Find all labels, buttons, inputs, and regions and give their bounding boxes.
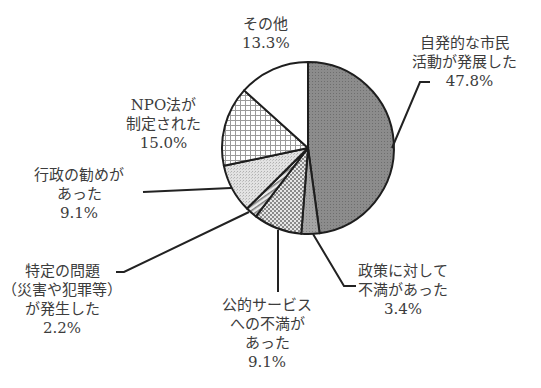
label-percent: 9.1% [222, 353, 312, 372]
label-civic-activity: 自発的な市民 活動が発展した 47.8% [412, 34, 517, 91]
label-administration: 行政の勧めが あった 9.1% [34, 166, 124, 223]
label-percent: 15.0% [126, 134, 201, 153]
label-line: 公的サービス [222, 296, 312, 315]
label-policy-dissatisfaction: 政策に対して 不満があった 3.4% [358, 262, 448, 319]
label-line: その他 [242, 15, 290, 34]
label-line: 政策に対して [358, 262, 448, 281]
leader-line-civic [392, 82, 430, 148]
label-other: その他 13.3% [242, 15, 290, 53]
pie-slice-0 [308, 62, 394, 233]
label-specific-problem: 特定の問題 （災害や犯罪等） が発生した 2.2% [2, 262, 122, 338]
label-line: への不満が [222, 315, 312, 334]
label-line: が発生した [2, 300, 122, 319]
label-line: 自発的な市民 [412, 34, 517, 53]
label-line: 行政の勧めが [34, 166, 124, 185]
label-line: NPO法が [126, 96, 201, 115]
leader-line-problem [116, 212, 249, 272]
label-line: 特定の問題 [2, 262, 122, 281]
label-percent: 47.8% [412, 72, 517, 91]
label-line: 活動が発展した [412, 53, 517, 72]
label-percent: 13.3% [242, 34, 290, 53]
label-line: あった [222, 334, 312, 353]
label-line: 制定された [126, 115, 201, 134]
leader-line-policy [313, 234, 356, 286]
label-percent: 2.2% [2, 319, 122, 338]
label-public-service: 公的サービス への不満が あった 9.1% [222, 296, 312, 372]
label-line: あった [34, 185, 124, 204]
label-percent: 9.1% [34, 204, 124, 223]
pie-slices [222, 62, 394, 234]
label-percent: 3.4% [358, 300, 448, 319]
label-line: （災害や犯罪等） [2, 281, 122, 300]
label-npo-law: NPO法が 制定された 15.0% [126, 96, 201, 153]
label-line: 不満があった [358, 281, 448, 300]
leader-line-admin [143, 188, 231, 192]
